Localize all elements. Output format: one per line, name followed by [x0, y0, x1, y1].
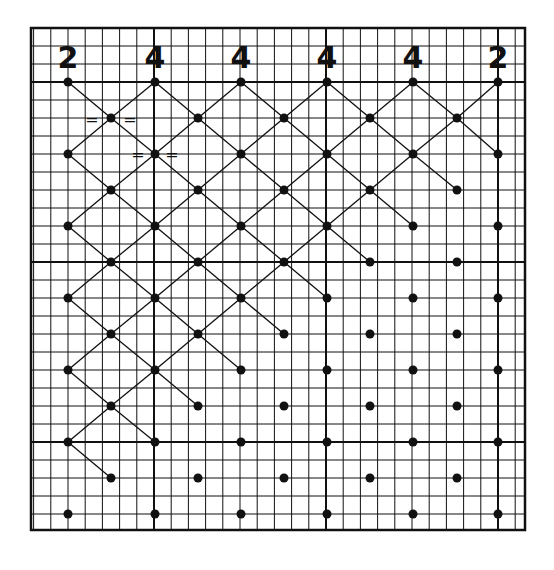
equal-mark: =: [123, 110, 136, 129]
top-label: 2: [488, 40, 509, 75]
graph-paper-grid: [31, 28, 525, 530]
top-label: 4: [231, 40, 252, 75]
equal-mark: =: [131, 145, 144, 164]
lattice-diagram: 244442 ====: [0, 0, 554, 570]
top-label: 2: [58, 40, 79, 75]
top-label: 4: [403, 40, 424, 75]
top-label: 4: [317, 40, 338, 75]
top-labels: 244442: [58, 40, 509, 75]
equal-mark: =: [85, 110, 98, 129]
top-label: 4: [145, 40, 166, 75]
equal-mark: =: [165, 145, 178, 164]
